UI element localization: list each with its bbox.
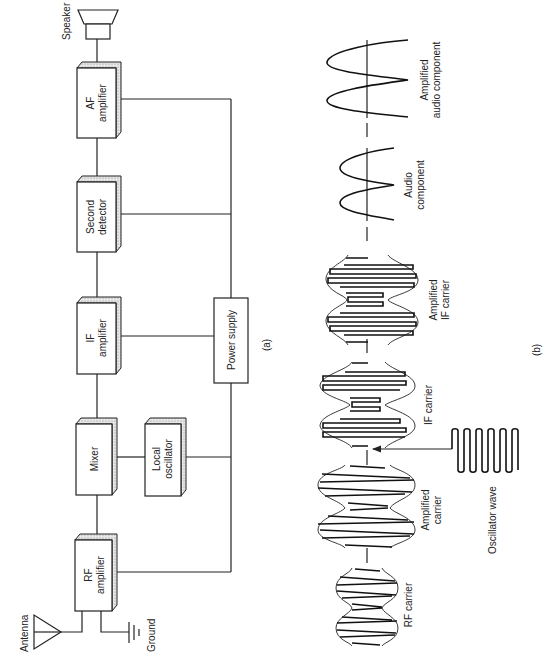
amplified-if-carrier-waveform — [326, 255, 418, 345]
rf-carrier-waveform — [336, 568, 398, 646]
amp-audio-line2: audio component — [431, 41, 442, 118]
if-carrier-line1: IF carrier — [423, 384, 434, 425]
amp-carrier-line2: carrier — [432, 495, 443, 524]
power-supply-block: Power supply — [214, 298, 248, 383]
lo-line1: Local — [151, 447, 162, 471]
antenna-label: Antenna — [19, 614, 30, 652]
det-line2: detector — [97, 198, 108, 235]
ps-line1: Power supply — [226, 310, 237, 370]
panel-a-label: (a) — [261, 339, 272, 351]
if-line1: IF — [85, 334, 96, 343]
panel-b: Amplified audio component Audio componen… — [318, 40, 542, 646]
second-detector-block: Second detector — [77, 176, 121, 252]
if-line2: amplifier — [97, 318, 108, 356]
amp-carrier-line1: Amplified — [420, 489, 431, 530]
rf-line1: RF — [83, 568, 94, 581]
af-line2: amplifier — [97, 83, 108, 121]
ground-icon — [101, 611, 139, 643]
det-line1: Second — [85, 200, 96, 234]
speaker-icon — [78, 10, 118, 39]
amplified-carrier-waveform — [318, 465, 415, 548]
amplified-audio-waveform — [327, 40, 408, 118]
ground-label: Ground — [146, 619, 157, 652]
audio-line2: component — [415, 160, 426, 210]
audio-component-waveform — [340, 148, 394, 221]
oscillator-waveform — [373, 429, 518, 473]
if-amplifier-block: IF amplifier — [77, 297, 121, 374]
panel-b-label: (b) — [531, 344, 542, 356]
rf-carrier-label: RF carrier — [403, 582, 414, 627]
local-oscillator-block: Local oscillator — [145, 418, 186, 496]
panel-a: Speaker AF amplifier Second detector IF … — [19, 2, 272, 652]
speaker-label: Speaker — [61, 2, 72, 40]
superhet-receiver-diagram: Speaker AF amplifier Second detector IF … — [0, 0, 554, 672]
rf-amplifier-block: RF amplifier — [75, 534, 117, 611]
mixer-block: Mixer — [76, 418, 117, 495]
osc-wave-label: Oscillator wave — [487, 486, 498, 554]
af-line1: AF — [85, 97, 96, 110]
mixer-line1: Mixer — [89, 446, 100, 471]
amp-if-line2: IF carrier — [440, 279, 451, 320]
audio-line1: Audio — [403, 172, 414, 198]
antenna-icon — [34, 611, 82, 649]
amp-if-line1: Amplified — [428, 279, 439, 320]
lo-line2: oscillator — [163, 439, 174, 479]
amp-audio-line1: Amplified — [419, 59, 430, 100]
if-carrier-waveform — [320, 362, 415, 448]
af-amplifier-block: AF amplifier — [77, 62, 121, 138]
rf-line2: amplifier — [95, 555, 106, 593]
